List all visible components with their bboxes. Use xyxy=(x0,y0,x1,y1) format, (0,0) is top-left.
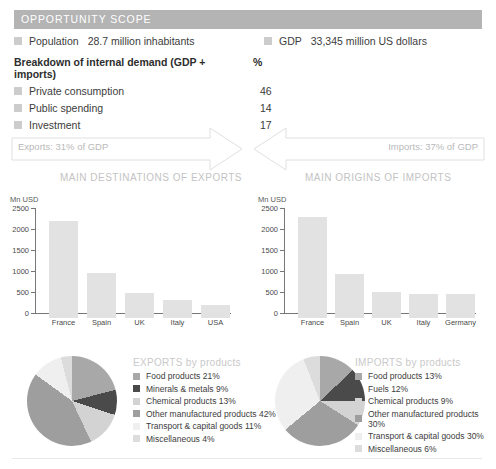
breakdown-unit: % xyxy=(253,56,262,68)
pie-legend-label: Chemical products 9% xyxy=(368,396,453,406)
y-axis-tick-label: 0 xyxy=(25,309,29,318)
x-axis-category-label: France xyxy=(301,318,324,327)
y-axis-tick xyxy=(280,250,284,251)
bar xyxy=(201,305,230,318)
legend-swatch-icon xyxy=(355,445,362,452)
legend-swatch-icon xyxy=(133,373,140,380)
breakdown-label: Private consumption xyxy=(29,85,260,97)
pie-legend-label: Chemical products 13% xyxy=(146,396,236,406)
legend-swatch-icon xyxy=(133,410,140,417)
population-entry: Population 28.7 million inhabitants xyxy=(14,35,264,47)
pie-legend-item: Chemical products 13% xyxy=(133,396,276,406)
y-axis-tick xyxy=(280,313,284,314)
y-axis-tick-label: 500 xyxy=(265,288,278,297)
pie-legend-item: Minerals & metals 9% xyxy=(133,384,276,394)
breakdown-value: 14 xyxy=(260,102,272,114)
exports-destinations-title: MAIN DESTINATIONS OF EXPORTS xyxy=(60,172,242,183)
y-axis-tick xyxy=(280,229,284,230)
bar xyxy=(87,273,116,318)
y-axis-tick-label: 0 xyxy=(274,309,278,318)
breakdown-title: Breakdown of internal demand (GDP + impo… xyxy=(14,56,245,80)
y-axis-tick xyxy=(280,292,284,293)
y-axis-tick-label: 1500 xyxy=(261,246,278,255)
pie-legend-item: Transport & capital goods 11% xyxy=(133,421,276,431)
pie-legend-label: Minerals & metals 9% xyxy=(146,384,228,394)
y-axis xyxy=(284,208,285,313)
y-axis-tick xyxy=(31,292,35,293)
y-axis-tick-label: 2500 xyxy=(261,204,278,213)
y-axis-tick xyxy=(31,271,35,272)
bar xyxy=(409,294,438,318)
x-axis-category-label: Italy xyxy=(417,318,431,327)
gdp-value: 33,345 million US dollars xyxy=(311,35,427,47)
pie-legend-label: Transport & capital goods 11% xyxy=(146,421,261,431)
breakdown-title-row: Breakdown of internal demand (GDP + impo… xyxy=(14,56,482,80)
y-axis-tick xyxy=(31,208,35,209)
pie-legend-label: Food products 13% xyxy=(368,371,442,381)
y-axis-tick-label: 2000 xyxy=(261,225,278,234)
exports-pie-legend: EXPORTS by productsFood products 21%Mine… xyxy=(133,357,276,444)
opportunity-scope-header: OPPORTUNITY SCOPE xyxy=(14,10,482,29)
pie-legend-label: Food products 21% xyxy=(146,371,220,381)
y-axis-tick-label: 500 xyxy=(16,288,29,297)
breakdown-row: Private consumption 46 xyxy=(14,85,482,97)
pie-legend-item: Miscellaneous 6% xyxy=(355,444,496,454)
bar xyxy=(372,292,401,318)
x-axis-category-label: France xyxy=(52,318,75,327)
y-axis-tick-label: 1500 xyxy=(12,246,29,255)
gdp-entry: GDP 33,345 million US dollars xyxy=(264,35,427,47)
pie-legend-item: Other manufactured products 42% xyxy=(133,409,276,419)
gdp-label: GDP xyxy=(279,35,302,47)
pie-legend-label: Miscellaneous 6% xyxy=(368,444,437,454)
bottom-divider xyxy=(12,458,482,459)
pie-legend-title: IMPORTS by products xyxy=(355,357,496,368)
imports-origins-title: MAIN ORIGINS OF IMPORTS xyxy=(305,172,451,183)
bar xyxy=(163,300,192,318)
x-axis-category-label: Italy xyxy=(171,318,185,327)
population-label: Population xyxy=(29,35,79,47)
pie-legend-item: Fuels 12% xyxy=(355,384,496,394)
opportunity-scope-panel: OPPORTUNITY SCOPE Population 28.7 millio… xyxy=(14,10,482,131)
x-axis-category-label: UK xyxy=(134,318,144,327)
pie-legend-label: Other manufactured products 42% xyxy=(146,409,276,419)
imports-bar-chart: 05001000150020002500FranceSpainUKItalyGe… xyxy=(284,208,484,318)
pie-legend-label: Miscellaneous 4% xyxy=(146,434,215,444)
breakdown-label: Public spending xyxy=(29,102,260,114)
exports-share-label: Exports: 31% of GDP xyxy=(18,141,108,152)
breakdown-value: 46 xyxy=(260,85,272,97)
x-axis-category-label: Spain xyxy=(340,318,359,327)
pie-legend-item: Transport & capital goods 30% xyxy=(355,431,496,441)
legend-swatch-icon xyxy=(133,385,140,392)
pie-legend-label: Transport & capital goods 30% xyxy=(368,431,484,441)
y-axis-tick xyxy=(280,271,284,272)
imports-pie-legend: IMPORTS by productsFood products 13%Fuel… xyxy=(355,357,496,454)
country-trade-profile-page: OPPORTUNITY SCOPE Population 28.7 millio… xyxy=(0,0,496,469)
pie-legend-item: Food products 13% xyxy=(355,371,496,381)
y-axis-tick xyxy=(280,208,284,209)
pie-legend-item: Miscellaneous 4% xyxy=(133,434,276,444)
bar xyxy=(125,293,154,318)
pie-legend-title: EXPORTS by products xyxy=(133,357,276,368)
legend-swatch-icon xyxy=(355,373,362,380)
legend-swatch-icon xyxy=(355,398,362,405)
y-axis-tick xyxy=(31,250,35,251)
pie-legend-item: Chemical products 9% xyxy=(355,396,496,406)
exports-pie-chart xyxy=(27,356,117,446)
y-axis-tick-label: 1000 xyxy=(12,267,29,276)
legend-swatch-icon xyxy=(133,435,140,442)
bar xyxy=(298,217,327,318)
x-axis-category-label: UK xyxy=(381,318,391,327)
legend-swatch-icon xyxy=(133,398,140,405)
bullet-square-icon xyxy=(264,37,272,45)
y-axis xyxy=(35,208,36,313)
bullet-square-icon xyxy=(14,37,22,45)
legend-swatch-icon xyxy=(133,423,140,430)
bar xyxy=(446,294,475,318)
y-axis-tick-label: 1000 xyxy=(261,267,278,276)
y-axis-tick xyxy=(31,229,35,230)
y-axis-tick-label: 2000 xyxy=(12,225,29,234)
x-axis-category-label: Germany xyxy=(445,318,476,327)
pie-legend-label: Fuels 12% xyxy=(368,384,408,394)
imports-pie-chart xyxy=(275,356,365,446)
y-axis-tick xyxy=(31,313,35,314)
